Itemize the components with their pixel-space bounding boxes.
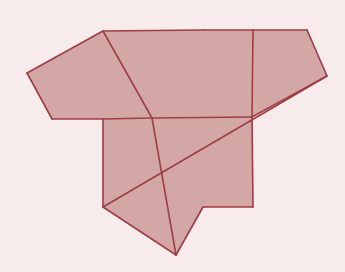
net-edge-top-center-bottom-diagonal	[152, 117, 252, 118]
net-diagram-canvas	[0, 0, 345, 272]
net-edge-top-center-left-diagonal	[103, 30, 203, 31]
net-edge-bottom-right-vertical	[252, 117, 253, 207]
net-edge-pentagon-left-bottom-right	[103, 118, 152, 119]
net-edge-top-center-right-vertical	[252, 30, 253, 117]
figure-root	[0, 0, 345, 272]
